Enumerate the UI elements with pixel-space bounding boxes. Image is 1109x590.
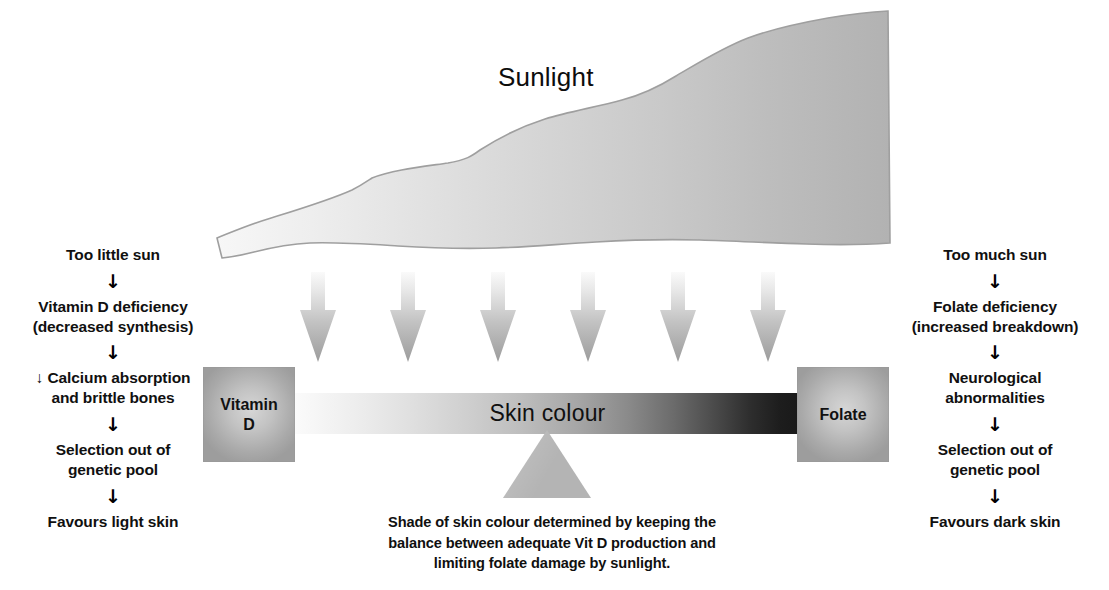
- sunlight-label: Sunlight: [498, 62, 594, 93]
- right-arrow-3: ↓: [880, 415, 1109, 434]
- left-step-5: Favours light skin: [0, 512, 228, 532]
- right-step-3: Neurological abnormalities: [880, 368, 1109, 408]
- left-arrow-1: ↓: [0, 272, 228, 291]
- right-arrow-2: ↓: [880, 343, 1109, 362]
- diagram-canvas: Sunlight Skin colour Vitamin D Folate: [0, 0, 1109, 590]
- left-arrow-4: ↓: [0, 487, 228, 506]
- vitamin-d-label: Vitamin D: [220, 395, 278, 433]
- left-arrow-3: ↓: [0, 415, 228, 434]
- skin-colour-bar: Skin colour: [295, 393, 800, 434]
- left-arrow-2: ↓: [0, 343, 228, 362]
- folate-label: Folate: [819, 405, 866, 424]
- left-step-1: Too little sun: [0, 245, 228, 265]
- right-step-1: Too much sun: [880, 245, 1109, 265]
- fulcrum-triangle: [503, 430, 591, 498]
- too-much-sun-chain: Too much sun ↓ Folate deficiency (increa…: [880, 245, 1109, 532]
- left-step-3: ↓ Calcium absorption and brittle bones: [0, 368, 228, 408]
- right-arrow-1: ↓: [880, 272, 1109, 291]
- right-step-5: Favours dark skin: [880, 512, 1109, 532]
- right-step-4: Selection out of genetic pool: [880, 440, 1109, 480]
- right-step-2: Folate deficiency (increased breakdown): [880, 297, 1109, 337]
- left-step-4: Selection out of genetic pool: [0, 440, 228, 480]
- balance-caption: Shade of skin colour determined by keepi…: [337, 512, 767, 574]
- folate-box: Folate: [797, 367, 889, 462]
- too-little-sun-chain: Too little sun ↓ Vitamin D deficiency (d…: [0, 245, 228, 532]
- skin-colour-label: Skin colour: [295, 393, 800, 434]
- left-step-2: Vitamin D deficiency (decreased synthesi…: [0, 297, 228, 337]
- right-arrow-4: ↓: [880, 487, 1109, 506]
